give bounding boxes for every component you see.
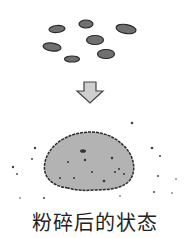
down-arrow-icon [77,82,103,103]
ground-powder-pile-icon [44,132,133,190]
illustration [0,0,190,238]
caption: 粉碎后的状态 [0,207,190,236]
whole-seeds-icon [43,20,137,62]
